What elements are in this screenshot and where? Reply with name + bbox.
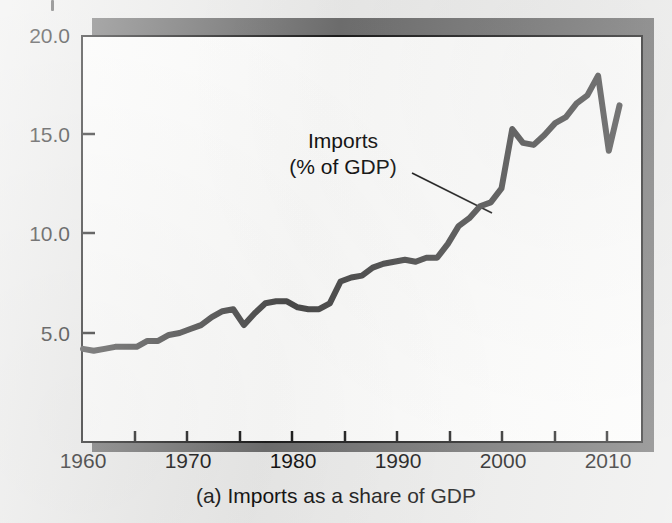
imports-share-of-gdp-figure: 20.0 15.0 10.0 5.0 1960 1970 1980 1990 2… <box>0 0 672 523</box>
y-axis-ticks <box>81 134 95 333</box>
chart-vector-layer <box>0 0 672 523</box>
imports-series-line <box>83 76 620 351</box>
x-axis-ticks <box>135 431 607 443</box>
